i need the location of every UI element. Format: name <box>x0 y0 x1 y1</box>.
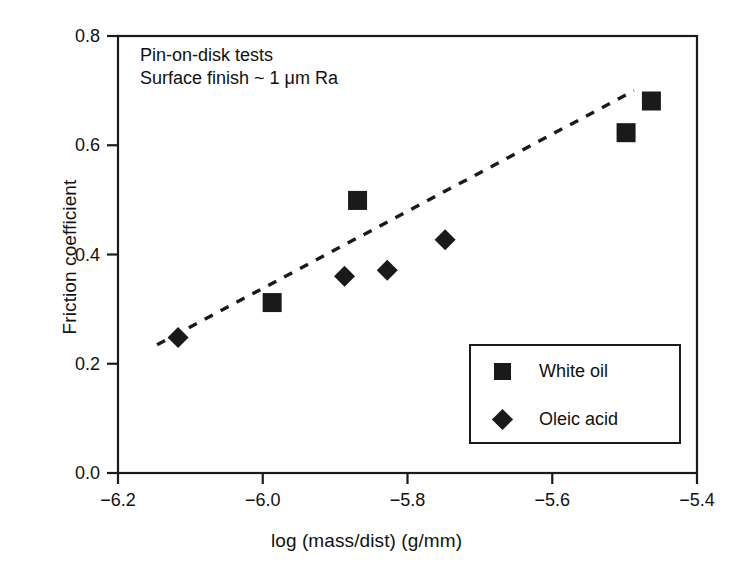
x-axis-ticks <box>118 473 697 484</box>
chart-annotation: Pin-on-disk tests Surface finish ~ 1 μm … <box>140 44 338 91</box>
y-tick-label: 0.8 <box>48 26 100 47</box>
legend-entry-oleic-acid: Oleic acid <box>471 394 679 444</box>
x-tick-label: −5.4 <box>679 490 715 511</box>
chart-figure: −6.2−6.0−5.8−5.6−5.4 0.00.20.40.60.8 log… <box>0 0 733 575</box>
legend-diamond-marker-icon <box>479 412 525 427</box>
legend-box: White oil Oleic acid <box>469 344 681 444</box>
x-tick-label: −6.2 <box>100 490 136 511</box>
legend-entry-white-oil: White oil <box>471 346 679 396</box>
trendline <box>157 91 634 345</box>
y-axis-title: Friction coefficient <box>59 47 81 467</box>
x-tick-label: −5.8 <box>390 490 426 511</box>
x-axis-title: log (mass/dist) (g/mm) <box>0 530 733 552</box>
x-tick-label: −5.6 <box>534 490 570 511</box>
plot-area <box>0 0 733 575</box>
legend-square-marker-icon <box>479 363 525 380</box>
data-markers <box>168 92 661 349</box>
annotation-line-1: Pin-on-disk tests <box>140 44 338 67</box>
y-axis-ticks <box>107 36 118 473</box>
x-tick-label: −6.0 <box>245 490 281 511</box>
annotation-line-2: Surface finish ~ 1 μm Ra <box>140 67 338 90</box>
legend-label-oleic-acid: Oleic acid <box>539 409 618 430</box>
legend-label-white-oil: White oil <box>539 361 608 382</box>
